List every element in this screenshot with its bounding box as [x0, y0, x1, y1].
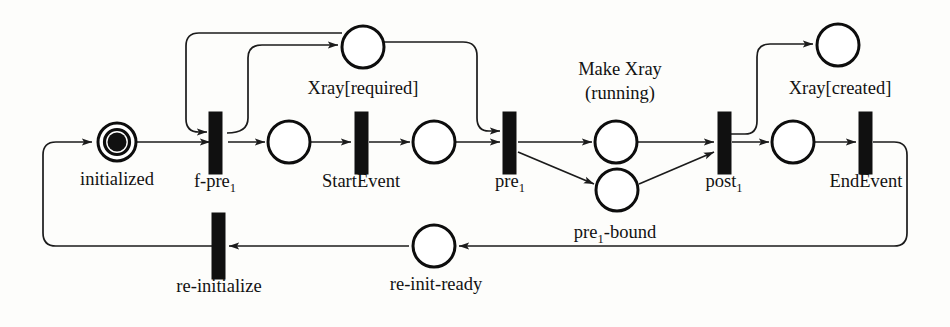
- petri-net-canvas: initialized f-pre1 StartEvent pre1 post1…: [0, 0, 950, 327]
- label-transition-pre1-sub: 1: [519, 181, 525, 195]
- label-transition-post1: post1: [705, 171, 742, 195]
- arc-pre1-to-pre1-bound: [518, 152, 594, 184]
- place-start-input[interactable]: [268, 121, 310, 163]
- place-xray-required[interactable]: [342, 26, 384, 68]
- place-end-input[interactable]: [772, 121, 814, 163]
- label-place-xray-created: Xray[created]: [789, 78, 892, 98]
- label-place-make-xray-line1: Make Xray: [578, 59, 662, 79]
- label-place-pre1-bound-main: pre: [574, 222, 598, 242]
- transition-post1[interactable]: [718, 112, 731, 174]
- place-re-init-ready[interactable]: [413, 225, 455, 267]
- label-transition-f-pre1: f-pre1: [194, 171, 236, 195]
- label-place-make-xray-line2: (running): [585, 83, 655, 104]
- petri-net-diagram: initialized f-pre1 StartEvent pre1 post1…: [0, 0, 950, 327]
- label-place-initialized: initialized: [80, 169, 155, 189]
- token-initialized: [108, 133, 127, 152]
- transition-pre1[interactable]: [503, 112, 516, 174]
- label-transition-end-event: EndEvent: [830, 171, 904, 191]
- transition-end-event[interactable]: [859, 112, 872, 174]
- place-make-xray-running[interactable]: [595, 121, 637, 163]
- label-place-xray-required: Xray[required]: [308, 78, 419, 98]
- transition-start-event[interactable]: [355, 112, 368, 174]
- transition-f-pre1[interactable]: [209, 112, 222, 174]
- label-layer: initialized f-pre1 StartEvent pre1 post1…: [80, 59, 903, 296]
- transition-re-initialize[interactable]: [212, 213, 225, 279]
- place-xray-created[interactable]: [817, 24, 859, 66]
- arc-pre1-bound-to-post1: [639, 152, 714, 184]
- arc-endevent-to-re-init-ready: [459, 142, 907, 246]
- label-place-re-init-ready: re-init-ready: [390, 274, 483, 294]
- label-transition-start-event: StartEvent: [322, 171, 401, 191]
- label-transition-pre1-main: pre: [495, 171, 519, 191]
- label-place-pre1-bound-tail: -bound: [604, 222, 657, 242]
- label-transition-f-pre1-main: f-pre: [194, 171, 230, 191]
- label-transition-post1-sub: 1: [736, 181, 742, 195]
- label-transition-pre1: pre1: [495, 171, 525, 195]
- place-pre1-input[interactable]: [413, 121, 455, 163]
- place-pre1-bound[interactable]: [596, 169, 638, 211]
- label-transition-re-initialize: re-initialize: [176, 276, 261, 296]
- label-transition-f-pre1-sub: 1: [230, 181, 236, 195]
- label-place-pre1-bound: pre1-bound: [574, 222, 657, 246]
- label-transition-post1-main: post: [705, 171, 737, 191]
